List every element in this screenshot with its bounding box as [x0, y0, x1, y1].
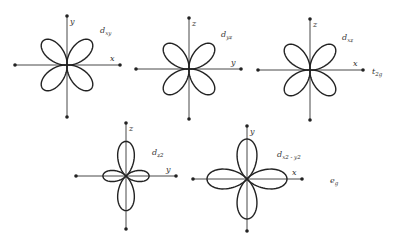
- axis-endpoint-dot: [187, 117, 191, 121]
- axis-endpoint-dot: [118, 63, 122, 67]
- axis-endpoint-dot: [74, 174, 78, 178]
- orbital-lobe: [310, 70, 336, 96]
- horizontal-axis-label: x: [110, 54, 115, 63]
- axis-endpoint-dot: [300, 177, 304, 181]
- axis-endpoint-dot: [308, 118, 312, 122]
- orbital-lobe: [41, 39, 67, 65]
- vertical-axis-label: z: [191, 19, 197, 28]
- axis-endpoint-dot: [239, 67, 243, 71]
- axis-endpoint-dot: [308, 17, 312, 21]
- vertical-axis-label: z: [128, 124, 134, 133]
- group-label-eg: eg: [330, 176, 339, 187]
- vertical-axis-label: y: [69, 17, 75, 26]
- axis-endpoint-dot: [256, 68, 260, 72]
- axis-endpoint-dot: [174, 174, 178, 178]
- axis-endpoint-dot: [65, 14, 69, 18]
- axis-endpoint-dot: [191, 177, 195, 181]
- orbital-label: dxy: [100, 26, 112, 37]
- orbital-lobe: [67, 39, 93, 65]
- orbital-dx2-y2: xydx2 - y2: [191, 124, 304, 233]
- orbital-label: dxz: [342, 33, 353, 43]
- vertical-axis-label: z: [312, 20, 318, 29]
- orbital-label: dyz: [221, 30, 232, 41]
- axis-endpoint-dot: [245, 229, 249, 233]
- orbital-lobe: [310, 44, 336, 70]
- orbital-dz2: yzdz2: [74, 121, 178, 231]
- orbital-lobe: [67, 65, 93, 91]
- orbital-dyz: yzdyz: [134, 16, 243, 121]
- axis-endpoint-dot: [187, 16, 191, 20]
- orbital-label: dx2 - y2: [277, 150, 301, 161]
- group-label-t2g: t2g: [372, 67, 383, 78]
- orbital-label: dz2: [152, 148, 164, 158]
- orbital-lobe: [163, 69, 189, 95]
- horizontal-axis-label: x: [353, 59, 358, 68]
- orbital-lobe: [189, 69, 215, 95]
- orbital-lobe: [189, 43, 215, 69]
- orbital-dxz: xzdxz: [256, 17, 365, 122]
- axis-endpoint-dot: [245, 124, 249, 128]
- axis-endpoint-dot: [124, 227, 128, 231]
- vertical-axis-label: y: [249, 127, 255, 136]
- axis-endpoint-dot: [134, 67, 138, 71]
- orbital-lobe: [163, 43, 189, 69]
- horizontal-axis-label: x: [292, 168, 297, 177]
- orbital-lobe: [41, 65, 67, 91]
- orbital-lobe: [284, 70, 310, 96]
- axis-endpoint-dot: [13, 63, 17, 67]
- axis-endpoint-dot: [124, 121, 128, 125]
- d-orbital-diagram: xydxy yzdyz xzdxz yzdz2 xydx2 - y2 t2g e…: [0, 0, 398, 243]
- axis-endpoint-dot: [65, 115, 69, 119]
- axis-endpoint-dot: [361, 68, 365, 72]
- orbital-dxy: xydxy: [13, 14, 122, 119]
- horizontal-axis-label: y: [230, 58, 236, 67]
- horizontal-axis-label: y: [165, 165, 171, 174]
- orbital-lobe: [284, 44, 310, 70]
